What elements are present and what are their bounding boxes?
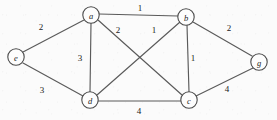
node-a-label: a bbox=[89, 11, 93, 21]
edge-weight-a-b: 1 bbox=[138, 3, 143, 13]
graph-canvas: a b e g d c 1 2 bbox=[0, 0, 277, 120]
edge-a-b bbox=[99, 14, 178, 16]
edge-weight-d-c: 4 bbox=[137, 106, 142, 116]
edge-b-g bbox=[193, 22, 252, 56]
edge-b-c bbox=[187, 25, 189, 92]
edge-weight-e-a: 2 bbox=[39, 22, 44, 32]
node-b-label: b bbox=[184, 13, 188, 23]
edge-weight-a-d: 3 bbox=[78, 53, 83, 63]
edge-weight-b-d: 1 bbox=[152, 25, 157, 35]
edge-e-d bbox=[23, 63, 83, 96]
node-d[interactable]: d bbox=[82, 92, 98, 108]
edge-weight-b-c: 1 bbox=[191, 53, 196, 63]
node-c[interactable]: c bbox=[181, 92, 197, 108]
edge-e-a bbox=[23, 20, 84, 52]
node-e-label: e bbox=[14, 53, 18, 63]
node-b[interactable]: b bbox=[178, 9, 194, 25]
node-c-label: c bbox=[187, 96, 191, 106]
edge-weight-b-g: 2 bbox=[227, 23, 232, 33]
node-g-label: g bbox=[257, 58, 261, 68]
edge-weight-a-c: 2 bbox=[116, 25, 121, 35]
edge-weight-c-g: 4 bbox=[225, 84, 230, 94]
node-e[interactable]: e bbox=[8, 49, 24, 65]
edge-group bbox=[23, 14, 253, 101]
edge-b-d bbox=[97, 22, 180, 95]
edge-weight-group: 1 2 3 3 2 1 1 2 4 4 bbox=[39, 3, 232, 116]
node-g[interactable]: g bbox=[251, 54, 267, 70]
edge-a-d bbox=[90, 23, 91, 92]
graph-figure: a b e g d c 1 2 bbox=[0, 0, 277, 120]
node-a[interactable]: a bbox=[83, 7, 99, 23]
edge-weight-e-d: 3 bbox=[40, 85, 45, 95]
